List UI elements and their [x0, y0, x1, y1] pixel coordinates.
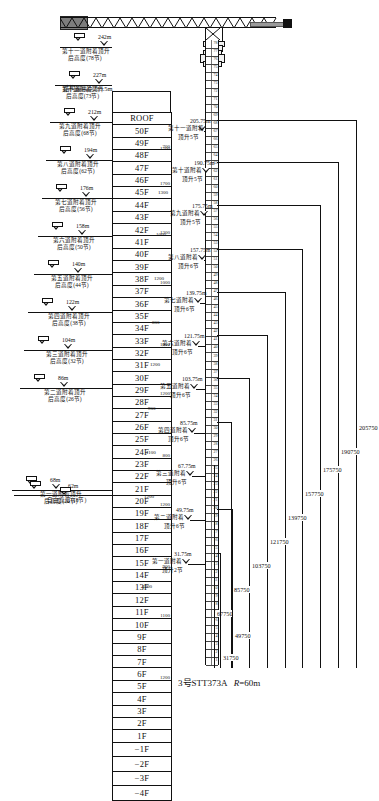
level-height-value: 122m [66, 299, 79, 305]
level-note-line2: 后高度(56节) [44, 206, 108, 213]
floor-label: 7F [137, 658, 146, 667]
floor-label: 21F [135, 485, 149, 494]
floor-label: 34F [135, 324, 149, 333]
floor-label: 12F [135, 596, 149, 605]
floor-row: 43F [113, 212, 171, 224]
mast-section-number: 68 [214, 121, 218, 125]
level-height-value: 68m [50, 477, 60, 483]
dimension-extension-line [356, 120, 357, 668]
floor-label: 17F [135, 534, 149, 543]
floor-label: 32F [135, 349, 149, 358]
level-height-value: 242m [98, 34, 111, 40]
level-note: 第十一道附着顶升后高度(78节) [62, 48, 108, 62]
level-symbol-outline-secondary [82, 192, 90, 197]
floor-label: 36F [135, 300, 149, 309]
floor-label: 44F [135, 201, 149, 210]
dimension-tie-line [217, 509, 232, 510]
jib-truss-web [60, 17, 280, 29]
dimension-tie-line [217, 249, 302, 250]
level-symbol-bar [42, 298, 53, 303]
attachment-name: 第九道附着 [170, 210, 200, 217]
attachment-elevation: 49.75m [176, 507, 194, 513]
floor-offset-value: 800 [163, 453, 171, 458]
floor-row: 3F [113, 706, 171, 718]
floor-row: 1F [113, 730, 171, 742]
attachment-level-symbol [200, 211, 208, 216]
mast-section-number: 31 [214, 418, 218, 422]
level-symbol-outline-secondary [100, 41, 108, 46]
floor-row: 36F [113, 298, 171, 310]
dimension-tie-line [217, 120, 356, 121]
floor-row: 6F1200 [113, 668, 171, 680]
floor-label: 3F [137, 707, 146, 716]
level-note-line1: 第七道附着顶升 [44, 199, 108, 206]
floor-row: 48F [113, 150, 171, 162]
level-symbol-bar [38, 336, 49, 341]
level-symbol-outline-secondary [64, 344, 72, 349]
level-symbol-outline-secondary [78, 230, 86, 235]
structure-top-edge [112, 91, 170, 92]
floor-row: 11F1100 [113, 607, 171, 619]
attachment-name: 第一道附着 [152, 558, 182, 565]
mast-section-number: 26 [214, 458, 218, 462]
floor-label: 29F [135, 386, 149, 395]
dimension-extension-line [267, 335, 268, 668]
floor-row: 16F [113, 545, 171, 557]
dimension-extension-line [249, 378, 250, 668]
level-height-value: 227m [93, 72, 106, 78]
floor-label: 16F [135, 546, 149, 555]
mast-section-number: 9 [216, 594, 218, 598]
mast-section-number: 49 [214, 273, 218, 277]
mast-section-number: 65 [214, 145, 218, 149]
floor-row: 2F [113, 718, 171, 730]
mast-section-number: 72 [214, 89, 218, 93]
structure-left-edge [112, 91, 113, 113]
mast-section-number: 28 [214, 442, 218, 446]
mast-section-number: 29 [214, 434, 218, 438]
level-bar-free-a [30, 481, 41, 486]
attachment-offset-value: 1700 [160, 146, 170, 151]
attachment-jack-count: 顶升6节 [170, 392, 191, 399]
floor-row: 28F [113, 397, 171, 409]
attachment-name: 第七道附着 [164, 297, 194, 304]
floor-offset-value: 1100 [160, 613, 170, 618]
floor-row: 37F [113, 286, 171, 298]
dimension-value: 157750 [304, 490, 325, 497]
attachment-elevation: 190.75m [194, 160, 214, 166]
floor-row: 20F1200 [113, 496, 171, 508]
level-note: 第六道附着顶升后高度(50节) [40, 237, 108, 251]
mast-section-number: 54 [214, 233, 218, 237]
floor-offset-value: 1200 [160, 675, 170, 680]
floor-label: 1F [137, 732, 146, 741]
dimension-extension-line [285, 292, 286, 668]
free-height-leader [14, 495, 112, 496]
level-note-line2: 后高度(73节) [57, 93, 108, 100]
attachment-offset-value: 1300 [158, 190, 168, 195]
dimension-value: 49750 [234, 632, 251, 639]
level-note-line2: 后高度(32节) [26, 358, 108, 365]
floor-label: 18F [135, 522, 149, 531]
floor-label: 26F [135, 423, 149, 432]
floor-label: 11F [135, 608, 149, 617]
mast-standard-sections: 7877767574737271706968676665646362616059… [205, 40, 219, 665]
level-note: 第三道附着顶升后高度(32节) [26, 351, 108, 365]
level-note-line2: 后高度(38节) [30, 320, 108, 327]
floor-row: 17F [113, 533, 171, 545]
attachment-jack-count: 顶升5节 [180, 219, 201, 226]
level-note-line2: 后高度(50节) [40, 244, 108, 251]
attachment-name: 第十一道附着 [168, 125, 204, 132]
floor-row: 32F [113, 348, 171, 360]
mast-section-number: 4 [216, 634, 218, 638]
floor-label: 30F [135, 374, 149, 383]
dimension-value: 175750 [322, 466, 343, 473]
floor-label: 31F [135, 361, 149, 370]
mast-section-number: 50 [214, 265, 218, 269]
mast-section-number: 77 [214, 49, 218, 53]
floor-label: 28F [135, 398, 149, 407]
attachment-name: 第二道附着 [154, 514, 184, 521]
floor-label: 19F [135, 509, 149, 518]
mast-section-number: 32 [214, 410, 218, 414]
level-symbol-bar [64, 108, 75, 113]
level-symbol-outline-secondary [60, 382, 68, 387]
dimension-value: 121750 [269, 538, 290, 545]
